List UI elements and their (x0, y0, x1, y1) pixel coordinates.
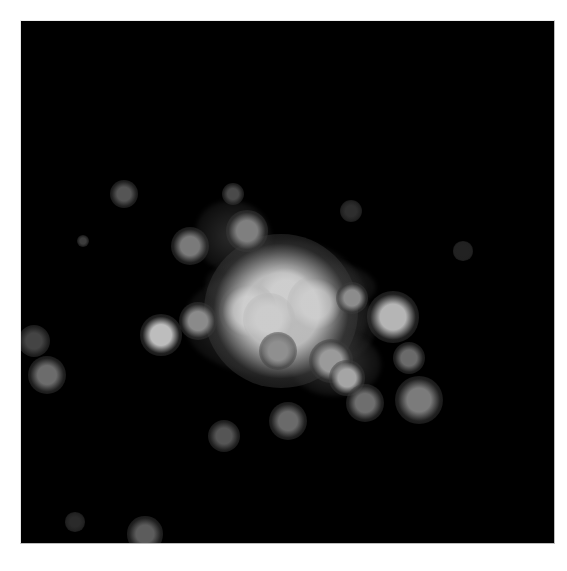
galaxy-small-nw (77, 235, 90, 248)
galaxy-nw (171, 227, 209, 265)
galaxy-e-of-core (336, 282, 368, 314)
galaxy-se-1 (393, 342, 425, 374)
galaxy-sw-of-core (179, 302, 217, 340)
galaxy-bottom-faint (65, 512, 84, 531)
galaxy-south-ring (269, 402, 307, 440)
galaxy-far-west (28, 356, 66, 394)
galaxy-north (226, 210, 268, 252)
galaxy-east-bright (367, 291, 418, 342)
galaxy-ne-faint-2 (340, 200, 362, 222)
galaxy-se-elongated (395, 376, 443, 424)
galaxy-ne-faint (110, 180, 139, 209)
galaxy-south-faint (208, 420, 240, 452)
image-frame (20, 20, 555, 544)
galaxy-west-ring (140, 314, 182, 356)
galaxy-se-2 (346, 384, 384, 422)
galaxy-east-faint (453, 241, 472, 260)
galaxy-south-1 (259, 332, 297, 370)
galaxy-bottom-edge (127, 516, 162, 544)
galaxy-edge-west (20, 325, 50, 357)
